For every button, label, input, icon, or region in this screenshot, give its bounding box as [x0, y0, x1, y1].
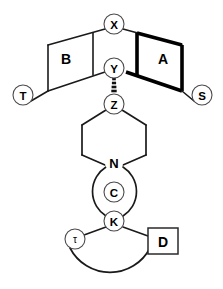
ring-c-label: C — [110, 187, 118, 199]
node-s-label: S — [198, 90, 206, 102]
ring-d-label: D — [158, 234, 168, 250]
node-x-label: X — [110, 19, 118, 31]
bond-k-to-tau — [84, 227, 106, 235]
bond-a-top-edge — [137, 33, 182, 45]
node-t[interactable]: T — [13, 85, 33, 105]
diagram-canvas: T S X Y Z N K — [0, 0, 223, 289]
node-z[interactable]: Z — [104, 94, 124, 114]
bond-k-to-d — [123, 227, 148, 236]
ring-c-node: C — [104, 182, 124, 202]
bond-c6-to-z — [122, 110, 146, 125]
macrocycle-bottom-arc — [70, 248, 150, 272]
node-tau-label: τ — [73, 234, 77, 245]
atom-nitrogen-label: N — [109, 156, 118, 171]
node-k-label: K — [110, 216, 119, 228]
bond-b-bottom-edge — [48, 72, 105, 91]
node-y[interactable]: Y — [104, 58, 124, 78]
macrocycle-c-right-arc — [123, 167, 136, 216]
node-z-label: Z — [110, 99, 117, 111]
bond-b-to-t — [31, 91, 48, 101]
node-s[interactable]: S — [192, 85, 212, 105]
node-tau[interactable]: τ — [65, 229, 85, 249]
bond-x-to-b-topleft — [48, 29, 105, 45]
bond-y-to-z-hashed — [111, 79, 116, 91]
node-t-label: T — [19, 90, 26, 102]
node-d-box[interactable]: D — [148, 228, 178, 254]
bond-z-to-c2 — [82, 110, 106, 125]
bond-a-bottom-edge — [126, 72, 182, 91]
chemical-structure-diagram: T S X Y Z N K — [0, 0, 223, 289]
node-x[interactable]: X — [104, 14, 124, 34]
ring-a-label: A — [158, 51, 168, 67]
ring-b-label: B — [61, 51, 71, 67]
atom-nitrogen: N — [105, 154, 123, 172]
node-k[interactable]: K — [104, 211, 124, 231]
bond-n-to-c5 — [123, 155, 146, 165]
node-y-label: Y — [110, 63, 118, 75]
bond-c3-to-n — [82, 155, 105, 165]
